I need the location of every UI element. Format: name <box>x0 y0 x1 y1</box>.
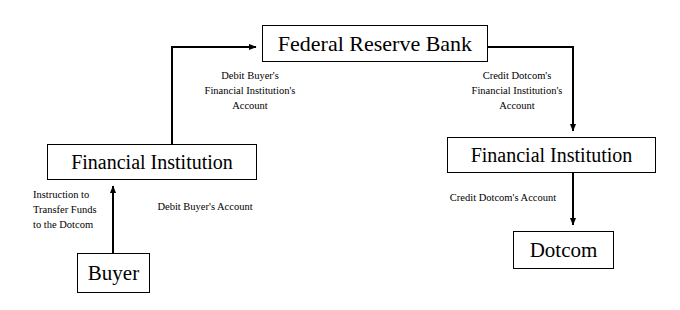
edge-label-line-3: to the Dotcom <box>33 218 121 233</box>
node-buyer: Buyer <box>77 253 150 293</box>
edge-label-credit-dotcom-financial-institution-account: Credit Dotcom's Financial Institution's … <box>452 69 582 114</box>
node-federal-reserve-bank: Federal Reserve Bank <box>262 25 488 62</box>
node-financial-institution-left: Financial Institution <box>47 144 257 180</box>
edge-label-debit-buyer-financial-institution-account: Debit Buyer's Financial Institution's Ac… <box>190 69 310 114</box>
node-federal-reserve-bank-label: Federal Reserve Bank <box>272 33 478 55</box>
edge-label-line-1: Debit Buyer's <box>190 69 310 84</box>
edge-label-debit-buyers-account: Debit Buyer's Account <box>140 200 270 215</box>
node-dotcom-label: Dotcom <box>524 240 604 261</box>
node-financial-institution-right: Financial Institution <box>447 137 656 173</box>
edge-label-line-3: Account <box>452 99 582 114</box>
funds-transfer-flow-diagram: Federal Reserve Bank Financial Instituti… <box>0 0 680 310</box>
node-buyer-label: Buyer <box>82 263 145 284</box>
edge-label-line-2: Financial Institution's <box>452 84 582 99</box>
node-dotcom: Dotcom <box>513 231 614 269</box>
edge-label-instruction-transfer-funds: Instruction to Transfer Funds to the Dot… <box>33 188 121 233</box>
edge-label-line-1: Instruction to <box>33 188 121 203</box>
edge-label-line-2: Financial Institution's <box>190 84 310 99</box>
edge-label-credit-dotcoms-account: Credit Dotcom's Account <box>432 191 574 206</box>
edge-label-line-2: Transfer Funds <box>33 203 121 218</box>
edge-label-line-1: Credit Dotcom's <box>452 69 582 84</box>
edge-label-line-3: Account <box>190 99 310 114</box>
node-financial-institution-left-label: Financial Institution <box>65 152 239 172</box>
node-financial-institution-right-label: Financial Institution <box>465 145 639 165</box>
